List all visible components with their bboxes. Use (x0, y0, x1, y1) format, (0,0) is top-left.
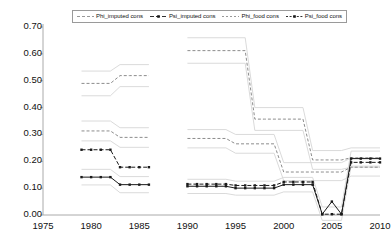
x-axis-tick-label: 1980 (81, 221, 102, 231)
x-axis-tick-label: 2010 (369, 221, 390, 231)
x-axis-tick-label: 1990 (177, 221, 198, 231)
x-axis-tick-label: 1975 (32, 221, 53, 231)
x-axis-tick-label: 1985 (129, 221, 150, 231)
x-axis-tick-label: 2000 (273, 221, 294, 231)
x-axis-tick-label: 2005 (321, 221, 342, 231)
x-axis-tick-label: 1995 (225, 221, 246, 231)
